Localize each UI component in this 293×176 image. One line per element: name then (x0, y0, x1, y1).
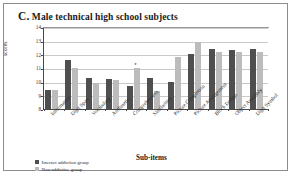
y-axis-tick-label: 9 (29, 94, 41, 99)
legend-item: Non-addictive group (35, 159, 89, 166)
bar (216, 52, 222, 109)
x-axis-tick-mark (105, 109, 106, 111)
y-axis-tick-mark (41, 42, 43, 43)
chart-legend: Internet addiction group Non-addictive g… (35, 152, 89, 166)
bar-group (126, 28, 146, 109)
y-axis-tick-label: 14 (29, 25, 41, 30)
x-axis-tick-mark (167, 109, 168, 111)
x-axis-tick-mark (44, 109, 45, 111)
y-axis-tick-mark (41, 110, 43, 111)
x-axis-tick-mark (146, 109, 147, 111)
x-axis-tick-mark (249, 109, 250, 111)
y-axis-label: scores (2, 41, 8, 56)
panel-letter: C. (18, 10, 29, 22)
bar (236, 52, 242, 109)
x-axis-tick-mark (268, 109, 269, 111)
bar-group (85, 28, 105, 109)
x-axis-tick-mark (187, 109, 188, 111)
x-axis-tick-mark (64, 109, 65, 111)
legend-label-series-1: Non-addictive group (42, 167, 83, 172)
y-axis-tick-mark (41, 96, 43, 97)
figure-panel: C. Male technical high school subjects s… (3, 3, 288, 171)
chart-title-text: Male technical high school subjects (29, 12, 177, 22)
y-axis-tick-label: 13 (29, 39, 41, 44)
y-axis-tick-mark (41, 69, 43, 70)
legend-swatch-series-1 (35, 167, 39, 171)
bar (195, 42, 201, 109)
y-axis-tick-label: 11 (29, 66, 41, 71)
bar-group (44, 28, 64, 109)
y-axis-tick-mark (41, 55, 43, 56)
bar (45, 90, 51, 109)
legend-item: Internet addiction group (35, 152, 89, 159)
x-axis-tick-mark (208, 109, 209, 111)
y-axis-tick-mark (41, 28, 43, 29)
bar (86, 78, 92, 109)
x-axis-tick-mark (228, 109, 229, 111)
y-axis-tick-label: 12 (29, 53, 41, 58)
bar (175, 57, 181, 109)
y-axis-ticks: 891011121314 (26, 28, 41, 110)
chart-title: C. Male technical high school subjects (18, 10, 178, 22)
bar (257, 52, 263, 109)
y-axis-tick-mark (41, 83, 43, 84)
x-axis-label: Sub-items (136, 154, 167, 162)
significance-marker: * (134, 62, 136, 68)
x-axis-tick-mark (126, 109, 127, 111)
y-axis-tick-label: 8 (29, 107, 41, 112)
x-axis-tick-mark (85, 109, 86, 111)
y-axis-tick-label: 10 (29, 80, 41, 85)
